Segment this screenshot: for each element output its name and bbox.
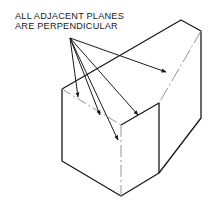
perpendicular-planes-figure [0,0,215,206]
hidden-edges [62,31,201,196]
leader-arrows [70,38,166,140]
